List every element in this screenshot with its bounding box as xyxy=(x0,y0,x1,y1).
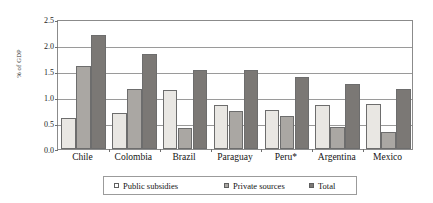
x-axis-tick-label: Brazil xyxy=(173,152,196,162)
legend-label: Total xyxy=(318,181,335,191)
x-axis-tick-label: Peru* xyxy=(275,152,297,162)
bar-group xyxy=(211,21,262,149)
legend-item[interactable]: Public subsidies xyxy=(114,181,178,191)
legend-swatch-icon xyxy=(309,183,314,188)
y-axis-tick-label: 0.0 xyxy=(28,146,54,155)
bar xyxy=(330,127,345,149)
x-axis-tick-label: Colombia xyxy=(115,152,152,162)
x-axis-tick-label: Paraguay xyxy=(217,152,252,162)
bar xyxy=(193,70,208,149)
bar xyxy=(142,54,157,149)
y-axis-tick-label: 0.5 xyxy=(28,120,54,129)
y-axis-tick-label: 2.0 xyxy=(28,42,54,51)
y-axis-tick-label: 2.5 xyxy=(28,16,54,25)
bar xyxy=(127,89,142,149)
x-axis-tick-label: Chile xyxy=(72,152,93,162)
bar xyxy=(178,128,193,149)
bar xyxy=(163,90,178,149)
x-axis-tick-labels: ChileColombiaBrazilParaguayPeru*Argentin… xyxy=(57,152,413,168)
bar xyxy=(315,105,330,149)
legend-swatch-icon xyxy=(114,183,119,188)
bar xyxy=(76,66,91,149)
bar-group xyxy=(312,21,363,149)
y-axis-tick-label: 1.0 xyxy=(28,94,54,103)
plot-area xyxy=(57,20,413,150)
bar xyxy=(396,89,411,149)
bar xyxy=(381,132,396,149)
legend-label: Public subsidies xyxy=(123,181,178,191)
bar-chart: % of GDP 0.00.51.01.52.02.5 ChileColombi… xyxy=(0,0,433,203)
x-axis-tick-label: Mexico xyxy=(373,152,402,162)
bar xyxy=(229,111,244,149)
bar xyxy=(91,35,106,149)
legend-label: Private sources xyxy=(233,181,285,191)
bar-group xyxy=(58,21,109,149)
bar xyxy=(295,77,310,149)
legend-item[interactable]: Private sources xyxy=(224,181,285,191)
y-axis-tick-labels: 0.00.51.01.52.02.5 xyxy=(28,14,54,156)
legend-item[interactable]: Total xyxy=(309,181,335,191)
x-axis-tick-label: Argentina xyxy=(318,152,356,162)
bar-group xyxy=(160,21,211,149)
bar-group xyxy=(109,21,160,149)
y-axis-tick-label: 1.5 xyxy=(28,68,54,77)
bar xyxy=(345,84,360,149)
bar xyxy=(112,113,127,149)
bar xyxy=(366,104,381,149)
bar xyxy=(61,118,76,149)
y-axis-title: % of GDP xyxy=(15,34,22,94)
bar xyxy=(214,105,229,149)
bar-group xyxy=(363,21,414,149)
y-axis-tick-mark xyxy=(55,150,58,151)
bar xyxy=(244,70,259,149)
bar xyxy=(265,110,280,149)
bar xyxy=(280,116,295,149)
chart-legend: Public subsidiesPrivate sourcesTotal xyxy=(103,176,357,195)
bar-group xyxy=(261,21,312,149)
legend-swatch-icon xyxy=(224,183,229,188)
